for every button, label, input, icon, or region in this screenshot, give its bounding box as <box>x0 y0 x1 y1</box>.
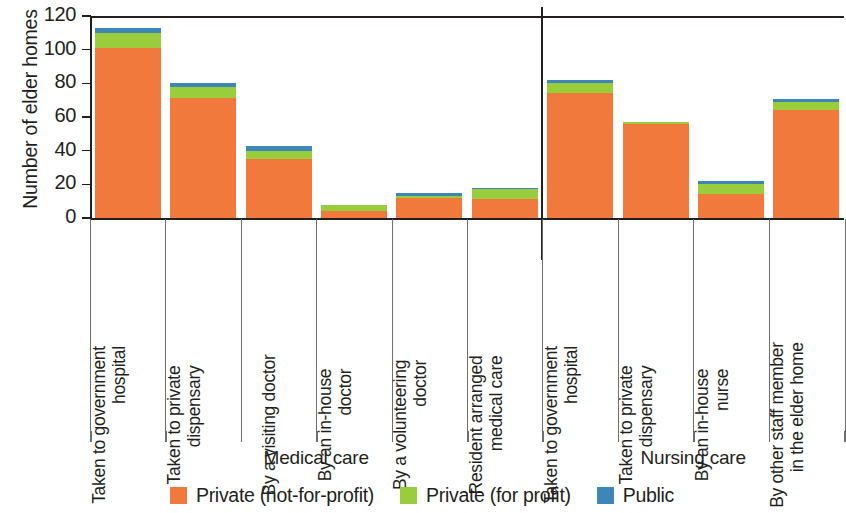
legend-label: Private (for profit) <box>426 484 571 507</box>
bar-segment <box>547 93 613 218</box>
bar-stack <box>246 146 312 218</box>
bar-stack <box>472 188 538 218</box>
bar-stack <box>396 193 462 218</box>
bar-segment <box>698 194 764 218</box>
bar-segment <box>698 181 764 184</box>
bar-segment <box>472 199 538 218</box>
x-axis-category-cell: By other staff memberin the elder home <box>769 219 846 431</box>
group-band-tick <box>618 431 620 442</box>
bar-segment <box>396 198 462 218</box>
bar-segment <box>246 151 312 159</box>
y-tick-label: 80 <box>2 70 76 93</box>
x-axis-category-cell: Taken to privatedispensary <box>165 219 241 431</box>
y-tick-label: 100 <box>2 37 76 60</box>
bar-stack <box>698 181 764 218</box>
legend-item[interactable]: Private (not-for-profit) <box>170 484 374 507</box>
bar-segment <box>170 83 236 86</box>
bar-stack <box>95 28 161 218</box>
chart-legend: Private (not-for-profit)Private (for pro… <box>0 481 844 509</box>
group-band-tick <box>542 431 544 442</box>
legend-item[interactable]: Public <box>597 484 674 507</box>
bar-segment <box>246 159 312 218</box>
bar-stack <box>623 122 689 218</box>
bar-segment <box>472 189 538 199</box>
bar-segment <box>396 196 462 198</box>
bar-stack <box>321 205 387 218</box>
bar-stack <box>773 98 839 218</box>
bar-segment <box>170 87 236 99</box>
bar-segment <box>95 48 161 218</box>
bar-segment <box>547 80 613 83</box>
bar-segment <box>321 211 387 218</box>
bar-segment <box>95 28 161 33</box>
bar-segment <box>321 205 387 212</box>
legend-swatch-green <box>400 487 417 504</box>
x-axis-category-cell: By an in-housedoctor <box>316 219 392 431</box>
group-band-tick <box>165 431 167 442</box>
group-band-tick <box>467 431 469 442</box>
bar-segment <box>698 184 764 194</box>
y-tick-label: 60 <box>2 104 76 127</box>
bar-segment <box>773 102 839 110</box>
y-tick-label: 120 <box>2 3 76 26</box>
bar-segment <box>623 122 689 124</box>
y-tick-label: 0 <box>2 205 76 228</box>
legend-swatch-blue <box>597 487 614 504</box>
bar-segment <box>170 98 236 218</box>
x-axis-label-band: Taken to governmenthospitalTaken to priv… <box>90 219 844 431</box>
y-tick-label: 40 <box>2 138 76 161</box>
group-label: Nursing care <box>542 447 844 469</box>
bar-segment <box>547 83 613 93</box>
bar-segment <box>246 146 312 151</box>
legend-item[interactable]: Private (for profit) <box>400 484 571 507</box>
x-axis-category-cell: By a volunteeringdoctor <box>392 219 468 431</box>
legend-swatch-orange <box>170 487 187 504</box>
bar-stack <box>547 80 613 218</box>
x-axis-category-cell: Taken to governmenthospital <box>90 219 166 431</box>
x-axis-category-cell: Taken to privatedispensary <box>618 219 694 431</box>
group-band-tick <box>769 431 771 442</box>
group-label: Medical care <box>90 447 542 469</box>
legend-label: Private (not-for-profit) <box>196 484 374 507</box>
x-axis-category-cell: By an in-housenurse <box>693 219 769 431</box>
group-band-tick <box>392 431 394 442</box>
bar-segment <box>396 193 462 196</box>
group-label-band: Medical careNursing care <box>90 431 844 475</box>
bar-segment <box>773 99 839 102</box>
x-axis-category-cell: Taken to governmenthospital <box>542 219 618 431</box>
plot-area <box>90 16 844 218</box>
bar-segment <box>95 33 161 48</box>
bar-segment <box>472 188 538 190</box>
group-band-tick <box>844 431 846 442</box>
group-band-tick <box>241 431 243 442</box>
x-axis-category-cell: Resident arrangedmedical care <box>467 219 543 431</box>
x-axis-category-cell: By a visiting doctor <box>241 219 317 431</box>
bar-stack <box>170 83 236 218</box>
group-band-tick <box>90 431 92 442</box>
legend-label: Public <box>623 484 674 507</box>
bar-segment <box>773 110 839 218</box>
group-band-tick <box>693 431 695 442</box>
y-tick-label: 20 <box>2 171 76 194</box>
group-band-tick <box>316 431 318 442</box>
bar-segment <box>623 124 689 218</box>
